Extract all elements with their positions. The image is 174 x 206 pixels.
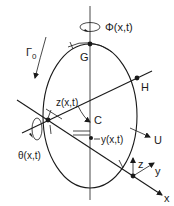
velocity-label: U xyxy=(154,134,162,146)
rotation-label: θ(x,t) xyxy=(18,150,41,161)
lateral-displacement-label: y(x,t) xyxy=(101,134,123,145)
circulation-arrow-icon xyxy=(35,37,46,78)
center-label: C xyxy=(94,114,102,126)
point-left xyxy=(46,118,51,123)
velocity-arrow xyxy=(130,128,150,137)
z-displacement-arrow xyxy=(78,106,90,122)
point-g-label: G xyxy=(80,51,89,63)
y-axis-label: y xyxy=(155,165,161,177)
point-h-label: H xyxy=(141,81,149,93)
vertical-displacement-label: z(x,t) xyxy=(56,97,78,108)
vortex-diagram: Φ(x,t) G Γ0 H z(x,t) C y(x,t) θ(x,t) U z… xyxy=(0,0,174,206)
x-axis-line xyxy=(17,100,162,195)
point-y xyxy=(89,136,93,140)
y-axis-arrow xyxy=(133,163,154,176)
point-h xyxy=(135,76,140,81)
offset-tick-left-lower xyxy=(50,125,51,134)
z-axis-label: z xyxy=(138,158,144,170)
twist-label: Φ(x,t) xyxy=(105,21,133,33)
x-axis-label: x xyxy=(164,192,170,204)
point-g xyxy=(88,42,93,47)
circulation-label: Γ0 xyxy=(26,46,37,61)
